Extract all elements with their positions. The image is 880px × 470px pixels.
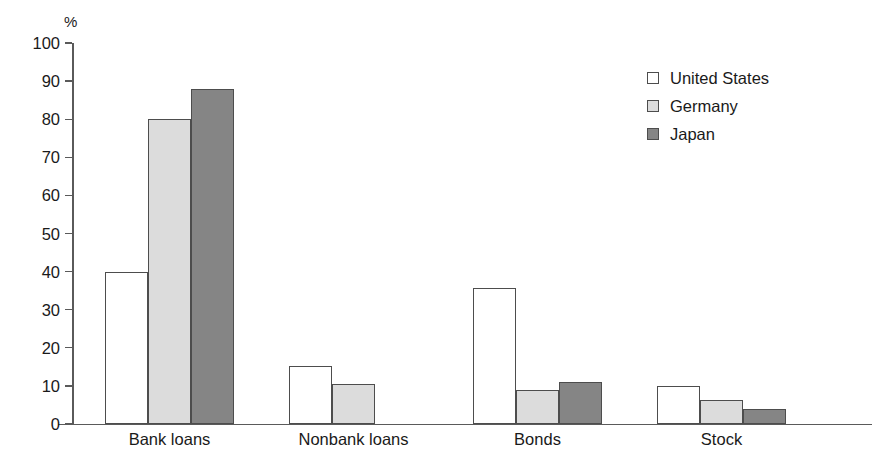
bar — [559, 382, 602, 424]
bar — [332, 384, 375, 424]
x-axis-category-label: Stock — [701, 431, 742, 448]
y-axis-tick — [65, 423, 72, 424]
y-axis-tick-label: 70 — [8, 149, 60, 166]
y-axis-tick — [65, 119, 72, 120]
y-axis-tick-label: 10 — [8, 378, 60, 395]
legend-swatch-icon — [647, 128, 659, 140]
y-axis-tick — [65, 233, 72, 234]
legend-item: Germany — [647, 92, 769, 120]
bar — [700, 400, 743, 424]
y-axis-tick — [65, 347, 72, 348]
bar — [289, 366, 332, 424]
legend-item: Japan — [647, 120, 769, 148]
bar-chart: % 1009080706050403020100 Bank loansNonba… — [0, 0, 880, 470]
y-axis-tick — [65, 271, 72, 272]
y-axis-tick — [65, 195, 72, 196]
chart-legend: United StatesGermanyJapan — [647, 64, 769, 148]
bar — [473, 288, 516, 424]
y-axis-tick — [65, 42, 72, 43]
y-axis-tick — [65, 309, 72, 310]
y-axis-tick-label: 20 — [8, 340, 60, 357]
y-axis-tick-label: 100 — [8, 35, 60, 52]
bar — [148, 119, 191, 424]
x-axis-category-label: Bank loans — [129, 431, 211, 448]
bar — [191, 89, 234, 424]
legend-item: United States — [647, 64, 769, 92]
legend-swatch-icon — [647, 72, 659, 84]
y-axis-tick — [65, 157, 72, 158]
y-axis-tick — [65, 385, 72, 386]
y-axis-tick-label: 30 — [8, 302, 60, 319]
legend-label: Japan — [670, 126, 715, 143]
y-axis-tick-label: 50 — [8, 226, 60, 243]
y-axis-tick-label: 60 — [8, 187, 60, 204]
x-axis-category-label: Bonds — [514, 431, 561, 448]
y-axis-tick-label: 80 — [8, 111, 60, 128]
legend-label: United States — [670, 70, 769, 87]
legend-label: Germany — [670, 98, 738, 115]
y-axis-tick-label: 90 — [8, 73, 60, 90]
y-axis-unit-label: % — [64, 13, 78, 30]
bar — [657, 386, 700, 424]
y-axis-tick-label: 40 — [8, 264, 60, 281]
bar — [105, 272, 148, 424]
bar — [743, 409, 786, 424]
y-axis-tick — [65, 80, 72, 81]
x-axis-category-label: Nonbank loans — [298, 431, 408, 448]
y-axis-tick-label: 0 — [8, 416, 60, 433]
legend-swatch-icon — [647, 100, 659, 112]
bar — [516, 390, 559, 424]
